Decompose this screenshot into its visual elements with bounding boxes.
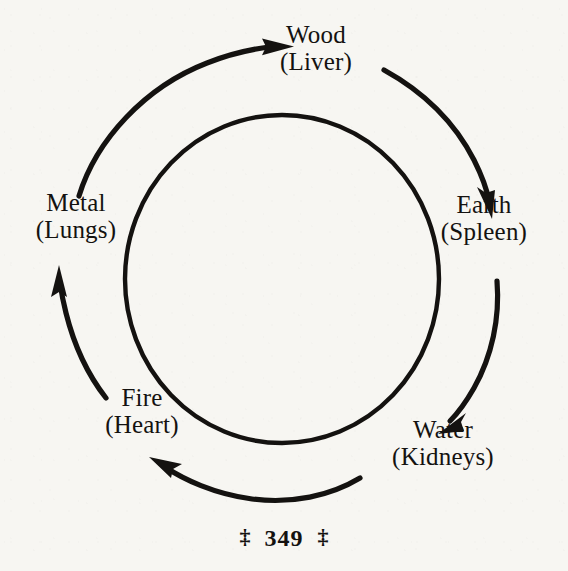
ornament-left-icon: ‡ xyxy=(240,524,251,549)
ornament-right-icon: ‡ xyxy=(318,524,329,549)
arrow-earth-to-water xyxy=(438,281,498,434)
node-element-earth: Earth xyxy=(400,192,568,219)
arrow-water-to-fire xyxy=(149,457,360,500)
node-label-metal: Metal (Lungs) xyxy=(0,190,156,243)
book-page: Wood (Liver) Earth (Spleen) Water (Kidne… xyxy=(0,0,568,571)
node-organ-earth: (Spleen) xyxy=(400,219,568,246)
node-organ-metal: (Lungs) xyxy=(0,217,156,244)
node-organ-fire: (Heart) xyxy=(72,412,212,439)
page-number: 349 xyxy=(265,525,304,551)
node-label-fire: Fire (Heart) xyxy=(72,385,212,438)
node-label-wood: Wood (Liver) xyxy=(236,22,396,75)
node-organ-water: (Kidneys) xyxy=(348,444,538,471)
node-element-fire: Fire xyxy=(72,385,212,412)
node-label-water: Water (Kidneys) xyxy=(348,417,538,470)
arrow-fire-to-metal xyxy=(51,265,106,398)
page-footer: ‡ 349 ‡ xyxy=(0,524,568,552)
node-element-water: Water xyxy=(348,417,538,444)
node-element-wood: Wood xyxy=(236,22,396,49)
node-label-earth: Earth (Spleen) xyxy=(400,192,568,245)
five-element-cycle-diagram xyxy=(0,0,568,571)
node-element-metal: Metal xyxy=(0,190,156,217)
node-organ-wood: (Liver) xyxy=(236,49,396,76)
